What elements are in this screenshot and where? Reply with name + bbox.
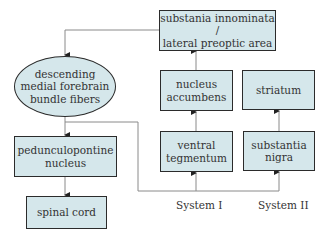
node-substantia-innominata: substania innominata / lateral preoptic … xyxy=(159,10,276,51)
node-label: substantia nigra xyxy=(251,139,306,164)
node-label: nucleus accumbens xyxy=(167,78,227,103)
node-ventral-tegmentum: ventral tegmentum xyxy=(160,131,233,172)
node-pedunculopontine: pedunculopontine nucleus xyxy=(14,136,117,177)
node-spinal-cord: spinal cord xyxy=(26,196,107,229)
node-label: ventral tegmentum xyxy=(166,139,227,164)
node-medial-forebrain-bundle: descending medial forebrain bundle fiber… xyxy=(14,56,116,117)
node-nucleus-accumbens: nucleus accumbens xyxy=(160,70,233,111)
label-system-1: System I xyxy=(176,199,222,211)
node-striatum: striatum xyxy=(242,70,315,110)
node-label: spinal cord xyxy=(37,206,96,219)
node-label: substania innominata / lateral preoptic … xyxy=(160,12,275,50)
node-label: pedunculopontine nucleus xyxy=(18,144,114,169)
node-substantia-nigra: substantia nigra xyxy=(243,131,315,171)
node-label: striatum xyxy=(256,84,301,97)
label-system-2: System II xyxy=(258,199,309,211)
node-label: descending medial forebrain bundle fiber… xyxy=(21,68,110,106)
